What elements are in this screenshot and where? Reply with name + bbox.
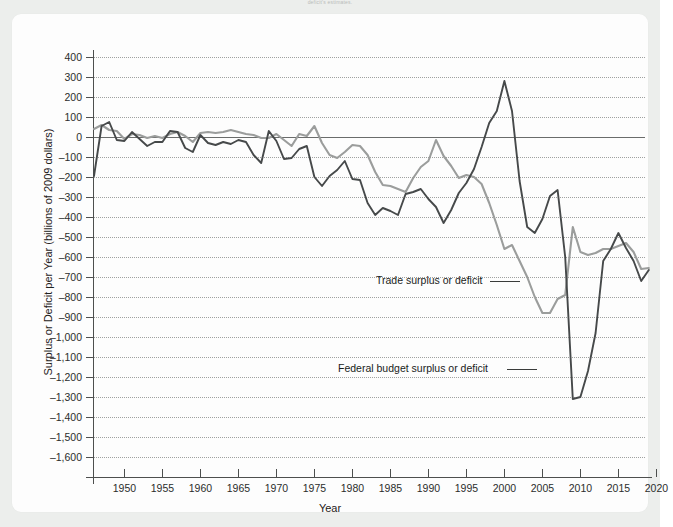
chart-series-layer <box>12 14 648 512</box>
series-line-budget <box>94 81 649 399</box>
series-line-trade <box>94 125 649 313</box>
top-caption-text: deficit's estimates. <box>0 0 660 6</box>
budget-annotation-label: Federal budget surplus or deficit <box>338 362 488 374</box>
trade-annotation-leader <box>490 281 520 282</box>
x-tick <box>656 469 657 477</box>
trade-annotation-label: Trade surplus or deficit <box>376 274 482 286</box>
budget-annotation-leader <box>507 369 537 370</box>
figure-card: Surplus or Deficit per Year (billions of… <box>12 14 648 512</box>
